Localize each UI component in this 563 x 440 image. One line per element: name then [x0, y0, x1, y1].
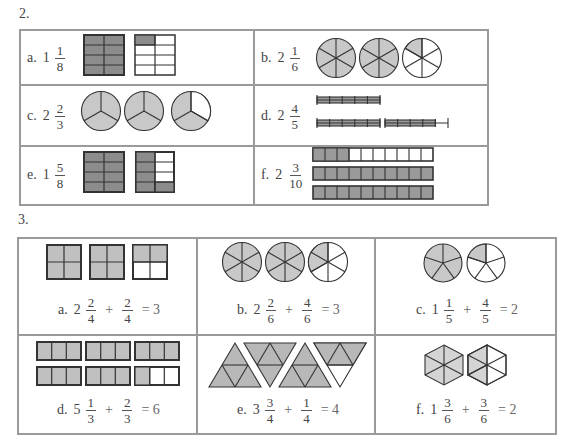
table-divider	[17, 334, 557, 336]
item-letter: c.	[416, 302, 426, 318]
problem-3-number: 3.	[18, 212, 29, 228]
fraction: 23	[55, 101, 66, 132]
item-letter: d.	[57, 402, 68, 418]
fraction: 15	[444, 295, 455, 326]
fraction: 24	[86, 295, 97, 326]
fraction: 26	[266, 295, 277, 326]
fraction: 18	[55, 43, 66, 74]
fraction-model-rectangles-8	[84, 35, 184, 77]
fraction: 45	[290, 101, 301, 132]
fraction: 13	[86, 395, 97, 426]
fraction: 34	[265, 395, 276, 426]
problem-2f-label: f. 2 310	[261, 155, 307, 195]
fraction-model-triangles-4	[209, 343, 369, 389]
fraction: 46	[302, 295, 313, 326]
problem-2c-label: c. 2 23	[27, 96, 68, 136]
table-divider	[196, 237, 198, 435]
table-divider	[19, 84, 489, 86]
problem-2e-label: e. 1 58	[27, 155, 68, 195]
problem-3f-equation: f. 1 36 + 36 = 2	[416, 390, 522, 430]
item-letter: c.	[27, 108, 37, 124]
item-letter: e.	[237, 402, 247, 418]
problem-3a-equation: a. 2 24 + 24 = 3	[58, 290, 166, 330]
table-divider	[253, 29, 255, 206]
item-letter: b.	[237, 302, 248, 318]
table-divider	[19, 145, 489, 147]
fraction-model-hexagons-6	[425, 345, 510, 387]
problem-3d-equation: d. 5 13 + 23 = 6	[57, 390, 166, 430]
fraction: 36	[442, 395, 453, 426]
fraction: 23	[122, 395, 133, 426]
fraction-model-circles-3	[81, 91, 211, 133]
fraction-model-rectangles-8	[84, 152, 184, 194]
fraction-model-squares-4	[47, 245, 172, 281]
item-letter: d.	[261, 108, 272, 124]
fraction: 58	[55, 160, 66, 191]
fraction: 14	[301, 395, 312, 426]
fraction-model-circles-6	[222, 242, 352, 284]
mixed-number: 1 18	[37, 43, 69, 74]
mixed-number: 2 23	[37, 101, 69, 132]
item-letter: a.	[58, 302, 68, 318]
fraction-model-bars-5	[317, 97, 447, 129]
mixed-number: 2 16	[272, 43, 304, 74]
fraction: 310	[287, 160, 304, 191]
problem-3b-equation: b. 2 26 + 46 = 3	[237, 290, 346, 330]
item-letter: f.	[416, 402, 424, 418]
item-letter: f.	[261, 167, 269, 183]
fraction: 16	[290, 43, 301, 74]
problem-3c-equation: c. 1 15 + 45 = 2	[416, 290, 524, 330]
mixed-number: 2 310	[269, 160, 307, 191]
problem-2-number: 2.	[19, 6, 30, 22]
fraction-model-rectangles-3	[37, 342, 182, 388]
table-divider	[374, 237, 376, 435]
item-letter: b.	[261, 50, 272, 66]
fraction-model-circles-6	[316, 38, 446, 80]
fraction-model-circles-5	[424, 243, 514, 285]
problem-3e-equation: e. 3 34 + 14 = 4	[237, 390, 345, 430]
mixed-number: 1 58	[37, 160, 69, 191]
problem-2a-label: a. 1 18	[27, 38, 68, 78]
fraction-model-strips-10	[313, 148, 437, 200]
problem-2b-label: b. 2 16	[261, 38, 303, 78]
fraction: 24	[122, 295, 133, 326]
item-letter: e.	[27, 167, 37, 183]
fraction: 45	[480, 295, 491, 326]
item-letter: a.	[27, 50, 37, 66]
fraction: 36	[479, 395, 490, 426]
problem-2d-label: d. 2 45	[261, 96, 303, 136]
mixed-number: 2 45	[272, 101, 304, 132]
